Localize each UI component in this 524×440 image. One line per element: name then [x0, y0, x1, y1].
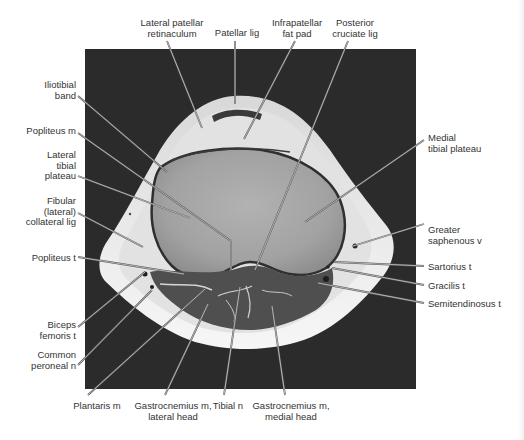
label-biceps-femoris-t: Biceps femoris t	[4, 320, 76, 341]
label-semitendinosus-t: Semitendinosus t	[428, 299, 522, 310]
label-medial-tibial-plateau: Medial tibial plateau	[428, 133, 518, 154]
mri-image	[0, 0, 524, 440]
label-lateral-patellar-retinaculum: Lateral patellar retinaculum	[137, 18, 207, 39]
label-popliteus-t: Popliteus t	[4, 253, 76, 264]
label-fibular-collateral-lig: Fibular (lateral) collateral lig	[0, 196, 76, 228]
label-popliteus-m: Popliteus m	[4, 126, 76, 137]
label-iliotibial-band: Iliotibial band	[4, 80, 76, 101]
label-sartorius-t: Sartorius t	[428, 262, 518, 273]
label-lateral-tibial-plateau: Lateral tibial plateau	[4, 150, 76, 182]
label-infrapatellar-fat-pad: Infrapatellar fat pad	[267, 18, 327, 39]
mri-figure: Lateral patellar retinaculum Patellar li…	[0, 0, 524, 440]
label-common-peroneal-n: Common peroneal n	[4, 350, 76, 371]
label-posterior-cruciate-lig: Posterior cruciate lig	[327, 18, 383, 39]
label-gastrocnemius-lateral-head: Gastrocnemius m, lateral head	[128, 401, 218, 422]
label-greater-saphenous-v: Greater saphenous v	[428, 225, 518, 246]
label-plantaris-m: Plantaris m	[60, 401, 134, 412]
label-patellar-lig: Patellar lig	[207, 28, 267, 39]
label-tibial-n: Tibial n	[206, 401, 250, 412]
label-gastrocnemius-medial-head: Gastrocnemius m, medial head	[246, 401, 336, 422]
label-gracilis-t: Gracilis t	[428, 281, 518, 292]
